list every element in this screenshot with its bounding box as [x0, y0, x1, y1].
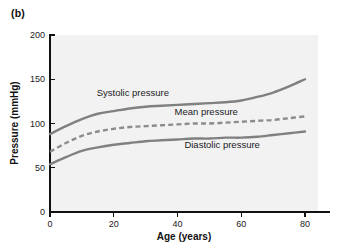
x-axis-title: Age (years) [157, 231, 211, 242]
x-tick-label-80: 80 [300, 219, 310, 229]
y-axis-tick-labels: 050100150200 [30, 30, 45, 217]
series-label-mean-pressure: Mean pressure [175, 106, 238, 117]
series-label-systolic-pressure: Systolic pressure [97, 87, 169, 98]
y-tick-label-0: 0 [40, 207, 45, 217]
x-tick-label-20: 20 [109, 219, 119, 229]
y-tick-label-150: 150 [30, 74, 45, 84]
figure-panel-b: (b) 050100150200 Pressure (mmHg) 0204060… [0, 0, 339, 249]
x-axis-ticks [50, 212, 305, 217]
blood-pressure-line-chart: 050100150200 Pressure (mmHg) 020406080 A… [0, 0, 339, 249]
series-label-diastolic-pressure: Diastolic pressure [184, 139, 260, 150]
x-axis: 020406080 Age (years) [47, 212, 330, 242]
plot-background [50, 35, 318, 212]
x-tick-label-40: 40 [172, 219, 182, 229]
y-tick-label-50: 50 [35, 163, 45, 173]
x-axis-tick-labels: 020406080 [47, 219, 310, 229]
y-tick-label-100: 100 [30, 119, 45, 129]
x-tick-label-60: 60 [236, 219, 246, 229]
y-tick-label-200: 200 [30, 30, 45, 40]
y-axis-title: Pressure (mmHg) [9, 81, 20, 164]
x-tick-label-0: 0 [47, 219, 52, 229]
y-axis: 050100150200 Pressure (mmHg) [9, 30, 55, 217]
